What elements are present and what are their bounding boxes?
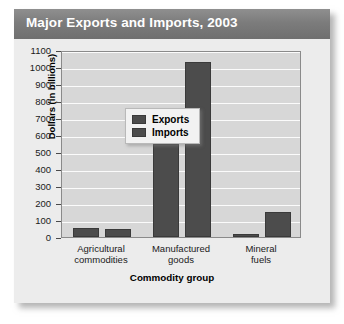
legend-label-exports: Exports [152, 114, 189, 125]
bar-exports-2 [233, 234, 259, 237]
y-axis-label: 100 [21, 215, 51, 226]
y-axis-label: 700 [21, 113, 51, 124]
legend-item-exports: Exports [132, 113, 189, 126]
legend-swatch-imports [132, 128, 146, 137]
bar-exports-0 [73, 228, 99, 237]
y-axis-tick [56, 238, 61, 239]
y-axis-label: 1100 [21, 45, 51, 56]
chart-title: Major Exports and Imports, 2003 [26, 15, 238, 30]
gridline [62, 52, 300, 53]
bar-exports-1 [153, 144, 179, 237]
gridline [62, 154, 300, 155]
y-axis-label: 500 [21, 147, 51, 158]
plot-area: Exports Imports [61, 51, 301, 238]
gridline [62, 171, 300, 172]
legend-label-imports: Imports [152, 127, 189, 138]
y-axis-label: 900 [21, 79, 51, 90]
y-axis-label: 400 [21, 164, 51, 175]
legend-item-imports: Imports [132, 126, 189, 139]
x-axis-title: Commodity group [14, 272, 330, 283]
gridline [62, 188, 300, 189]
bar-imports-0 [105, 229, 131, 238]
y-axis-label: 300 [21, 181, 51, 192]
chart-card: Major Exports and Imports, 2003 Dollars … [14, 9, 330, 303]
y-axis-label: 600 [21, 130, 51, 141]
x-axis-category-label: Manufactured goods [141, 243, 221, 265]
y-axis-label: 0 [21, 232, 51, 243]
y-axis-label: 800 [21, 96, 51, 107]
bar-imports-1 [185, 62, 211, 237]
chart-plot-region: Dollars (in billions) 010020030040050060… [14, 39, 330, 303]
bar-imports-2 [265, 212, 291, 238]
gridline [62, 86, 300, 87]
legend-swatch-exports [132, 115, 146, 124]
y-axis-label: 200 [21, 198, 51, 209]
y-axis-label: 1000 [21, 62, 51, 73]
chart-legend: Exports Imports [125, 108, 200, 144]
x-axis-category-label: Agricultural commodities [61, 243, 141, 265]
chart-title-band: Major Exports and Imports, 2003 [14, 9, 330, 39]
x-axis-category-label: Mineral fuels [221, 243, 301, 265]
gridline [62, 205, 300, 206]
gridline [62, 103, 300, 104]
gridline [62, 69, 300, 70]
